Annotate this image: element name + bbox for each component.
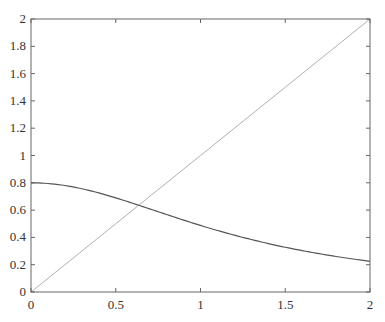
y-tick-label: 1.6 [10, 66, 27, 81]
y-axis: 00.20.40.60.811.21.41.61.82 [10, 11, 370, 299]
y-tick-label: 1.2 [10, 120, 26, 135]
x-tick-label: 0 [28, 297, 35, 312]
x-tick-label: 0.5 [108, 297, 124, 312]
series-line [31, 183, 370, 262]
y-tick-label: 1.4 [10, 93, 27, 108]
x-tick-label: 1.5 [277, 297, 293, 312]
x-tick-label: 1 [197, 297, 204, 312]
x-tick-label: 2 [367, 297, 374, 312]
y-tick-label: 0.4 [10, 229, 27, 244]
plot-area [31, 19, 370, 292]
y-tick-label: 0.8 [10, 175, 26, 190]
y-tick-label: 0.6 [10, 202, 27, 217]
y-tick-label: 1.8 [10, 38, 26, 53]
line-chart: 00.511.52 00.20.40.60.811.21.41.61.82 [0, 0, 385, 322]
series-line [31, 19, 370, 292]
x-axis: 00.511.52 [28, 19, 374, 312]
y-tick-label: 0 [20, 284, 27, 299]
y-tick-label: 0.2 [10, 257, 26, 272]
y-tick-label: 1 [20, 148, 27, 163]
y-tick-label: 2 [20, 11, 27, 26]
